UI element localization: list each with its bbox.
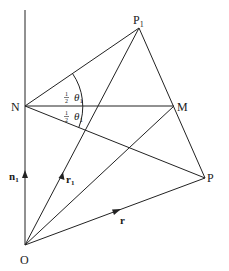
label-r: r <box>120 214 125 226</box>
svg-text:θ1: θ1 <box>74 110 83 124</box>
svg-text:θ1: θ1 <box>74 91 83 105</box>
label-O: O <box>20 253 29 267</box>
svg-text:2: 2 <box>65 117 68 123</box>
angle-label-upper: 1 2 θ1 <box>64 91 83 105</box>
line-O-M <box>25 106 174 245</box>
arrow-n1-icon <box>22 170 28 178</box>
label-P1: P1 <box>133 13 144 29</box>
svg-text:1: 1 <box>65 91 68 97</box>
svg-text:2: 2 <box>65 98 68 104</box>
angle-label-lower: 1 2 θ1 <box>64 110 83 124</box>
vector-r1-line <box>25 28 139 245</box>
line-N-P1 <box>25 28 139 106</box>
label-P: P <box>207 171 214 185</box>
label-n1: n1 <box>9 170 19 184</box>
label-r1: r1 <box>66 173 75 187</box>
svg-text:1: 1 <box>65 110 68 116</box>
label-N: N <box>11 100 20 114</box>
geometry-diagram: P1 N M P O n1 r1 r 1 2 θ1 1 2 θ1 <box>0 0 229 271</box>
label-M: M <box>177 100 188 114</box>
